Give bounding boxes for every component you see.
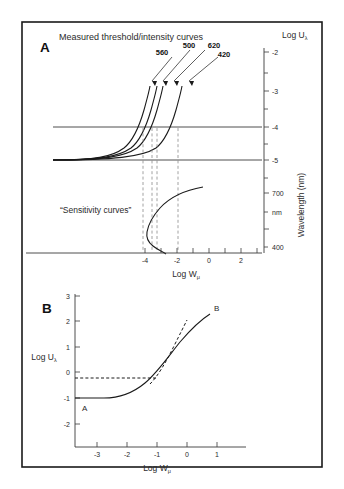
panel-a-letter: A xyxy=(40,40,50,55)
threshold-curve-420 xyxy=(53,86,182,160)
panel-a-xtick-0: -4 xyxy=(142,257,148,264)
threshold-curve-500 xyxy=(53,86,157,160)
panel-a: A Measured threshold/intensity curves 56… xyxy=(26,30,308,280)
leader-line-420 xyxy=(189,57,218,81)
figure-container: A Measured threshold/intensity curves 56… xyxy=(0,0,344,489)
panel-a-ytick-1: -3 xyxy=(272,88,278,95)
panel-a-right-ticks xyxy=(264,52,269,247)
panel-b-dashed-asymptote xyxy=(150,320,187,384)
panel-a-right-axis-title: Log Uλ xyxy=(282,30,308,41)
panel-a-xtick-1: -2 xyxy=(174,257,180,264)
panel-b-xtick-4: 1 xyxy=(215,451,219,458)
panel-a-ytick-0: -2 xyxy=(272,49,278,56)
leader-arrow-560 xyxy=(152,81,157,86)
leader-arrow-420 xyxy=(189,81,194,86)
panel-b-letter: B xyxy=(42,301,52,316)
panel-b-ytick-4: -1 xyxy=(64,395,70,402)
curve-label-560: 560 xyxy=(156,48,169,57)
panel-b-ytick-3: 0 xyxy=(66,369,70,376)
leader-line-560 xyxy=(152,57,172,81)
leader-arrow-500 xyxy=(163,81,168,86)
panel-a-xtick-2: 0 xyxy=(207,257,211,264)
panel-b-ytick-2: 1 xyxy=(66,344,70,351)
panel-b-x-axis-label: Log Wμ xyxy=(143,463,171,474)
leader-arrow-620 xyxy=(174,81,179,86)
panel-a-wavelength-axis-label: Wavelength (nm) xyxy=(296,173,306,238)
curve-label-420: 420 xyxy=(218,50,231,59)
sensitivity-annotation: “Sensitivity curves” xyxy=(60,205,131,215)
panel-a-xtick-3: 2 xyxy=(239,257,243,264)
sensitivity-curve xyxy=(147,187,203,254)
panel-a-wavelength-tick-1: nm xyxy=(272,209,282,216)
panel-b-ytick-0: 3 xyxy=(66,293,70,300)
panel-a-ytick-3: -5 xyxy=(272,157,278,164)
panel-a-x-axis-label: Log Wμ xyxy=(172,269,200,280)
panel-b-xtick-0: -3 xyxy=(94,451,100,458)
panel-b-solid-curve xyxy=(75,314,210,398)
panel-b-x-ticks xyxy=(97,442,217,447)
panel-a-ytick-2: -4 xyxy=(272,124,278,131)
panel-a-x-ticks xyxy=(145,248,257,253)
panel-b-curve-end-label: B xyxy=(214,304,219,313)
panel-b-y-ticks xyxy=(75,296,80,424)
panel-a-wavelength-tick-2: 400 xyxy=(272,244,284,251)
panel-a-wavelength-tick-0: 700 xyxy=(272,190,284,197)
curve-label-500: 500 xyxy=(183,41,196,50)
leader-line-620 xyxy=(174,50,205,81)
panel-b-ytick-1: 2 xyxy=(66,318,70,325)
panel-b-xtick-3: 0 xyxy=(185,451,189,458)
panel-b: B 3 2 1 0 -1 -2 Log Uλ -3 -2 -1 0 xyxy=(31,293,246,474)
scientific-figure: A Measured threshold/intensity curves 56… xyxy=(0,0,344,489)
panel-b-curve-start-label: A xyxy=(82,404,88,413)
panel-b-xtick-1: -2 xyxy=(124,451,130,458)
curve-label-620: 620 xyxy=(208,41,221,50)
panel-b-y-axis-label: Log Uλ xyxy=(31,352,57,363)
panel-b-xtick-2: -1 xyxy=(154,451,160,458)
panel-b-ytick-5: -2 xyxy=(64,421,70,428)
